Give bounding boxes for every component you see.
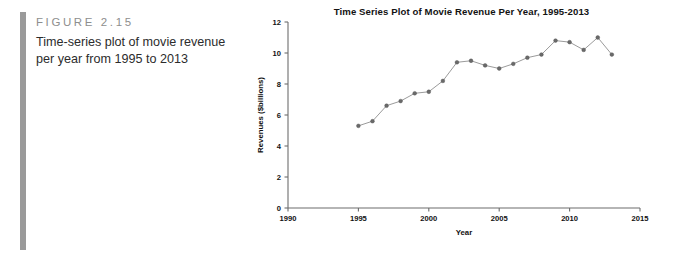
data-point	[455, 60, 459, 64]
chart-container: Time Series Plot of Movie Revenue Per Ye…	[250, 0, 673, 250]
data-point	[399, 99, 403, 103]
data-point	[568, 40, 572, 44]
data-point	[371, 119, 375, 123]
x-tick-label: 2010	[561, 214, 578, 223]
y-tick-label: 8	[277, 80, 281, 89]
data-point	[554, 39, 558, 43]
figure-page: FIGURE 2.15 Time-series plot of movie re…	[0, 0, 673, 263]
data-point	[469, 59, 473, 63]
time-series-chart: 024681012199019952000200520102015Revenue…	[250, 0, 673, 250]
data-point	[511, 62, 515, 66]
figure-number-label: FIGURE 2.15	[36, 16, 226, 28]
y-tick-label: 12	[273, 18, 281, 27]
data-point	[525, 56, 529, 60]
caption-accent-bar	[20, 12, 26, 250]
data-point	[596, 36, 600, 40]
y-tick-label: 4	[277, 142, 282, 151]
x-tick-label: 1995	[350, 214, 368, 223]
x-tick-label: 2000	[420, 214, 437, 223]
data-point	[441, 79, 445, 83]
data-point	[427, 90, 431, 94]
figure-caption-block: FIGURE 2.15 Time-series plot of movie re…	[36, 16, 226, 67]
data-point	[582, 48, 586, 52]
series-line-movie-revenue	[358, 38, 611, 126]
y-tick-label: 0	[277, 204, 281, 213]
x-tick-label: 2015	[632, 214, 650, 223]
data-point	[385, 104, 389, 108]
y-tick-label: 6	[277, 111, 281, 120]
y-axis-title: Revenues ($billions)	[256, 77, 265, 153]
figure-caption-text: Time-series plot of movie revenue per ye…	[36, 34, 226, 67]
data-point	[483, 64, 487, 68]
y-tick-label: 2	[277, 173, 281, 182]
data-point	[610, 53, 614, 57]
data-point	[497, 67, 501, 71]
x-axis-title: Year	[456, 228, 472, 237]
x-tick-label: 1990	[280, 214, 297, 223]
data-point	[540, 53, 544, 57]
data-point	[357, 124, 361, 128]
x-tick-label: 2005	[491, 214, 509, 223]
y-tick-label: 10	[273, 49, 281, 58]
data-point	[413, 91, 417, 95]
